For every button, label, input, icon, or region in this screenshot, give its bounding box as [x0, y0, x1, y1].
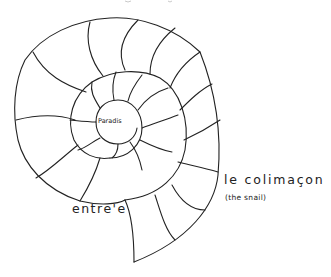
entry-label: entre'e [72, 201, 127, 216]
center-label-paradis: Paradis [98, 117, 122, 125]
shell-outer-wall [15, 18, 219, 262]
title-label: le colimaçon [224, 172, 324, 187]
shell-second-whorl [71, 72, 187, 200]
cropped-top-mark [125, 1, 172, 2]
snail-shell-diagram [0, 0, 331, 277]
subtitle-label: (the snail) [225, 193, 266, 202]
